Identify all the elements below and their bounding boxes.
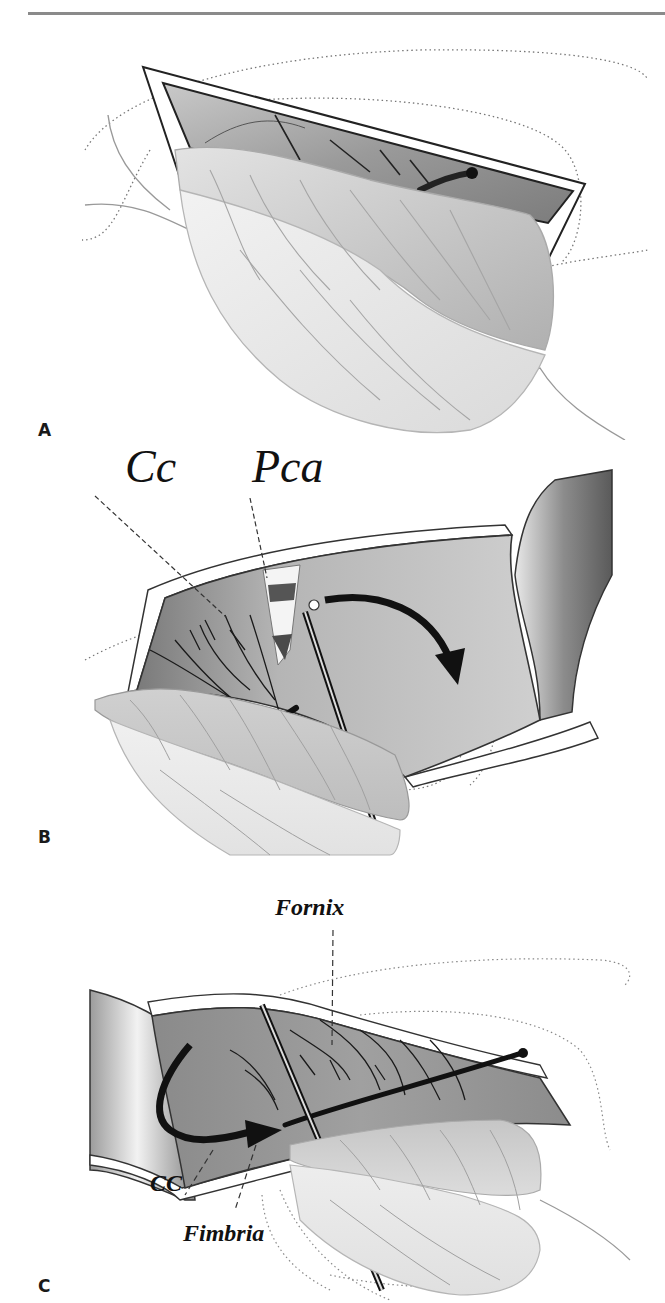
panel-letter-a: A	[38, 420, 51, 440]
label-cc-c: CC	[150, 1170, 182, 1197]
illustration-panel-b	[0, 440, 665, 880]
figure-panel-b: Cc Pca B	[0, 440, 665, 880]
illustration-panel-a	[0, 30, 665, 440]
label-cc-b: Cc	[125, 440, 176, 493]
illustration-panel-c	[0, 880, 665, 1303]
panel-letter-c: C	[38, 1276, 50, 1296]
label-fimbria: Fimbria	[183, 1220, 264, 1247]
figure-panel-a: A	[0, 30, 665, 440]
label-fornix: Fornix	[275, 894, 344, 921]
header-rule	[28, 12, 665, 15]
label-pca: Pca	[252, 440, 324, 493]
figure-panel-c: Fornix CC Fimbria C	[0, 880, 665, 1303]
panel-letter-b: B	[38, 827, 51, 847]
